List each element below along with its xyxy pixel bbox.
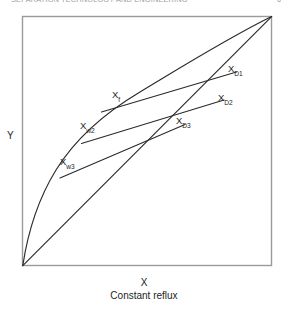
x-axis-sublabel: Constant reflux [0,289,288,302]
chart-canvas [0,0,288,310]
label-xd3: XD3 [176,116,191,126]
x-axis-label-block: X Constant reflux [0,276,288,302]
label-xw2: Xw2 [80,121,95,131]
label-xd1: XD1 [228,64,243,74]
label-xf: Xf [112,90,120,100]
label-xd2: XD2 [218,93,233,103]
x-axis-label: X [0,276,288,289]
label-xw3: Xw3 [60,157,75,167]
distillation-chart: Xf Xw2 Xw3 XD1 XD2 XD3 Y X Constant refl… [0,0,288,310]
y-axis-label: Y [7,130,14,141]
